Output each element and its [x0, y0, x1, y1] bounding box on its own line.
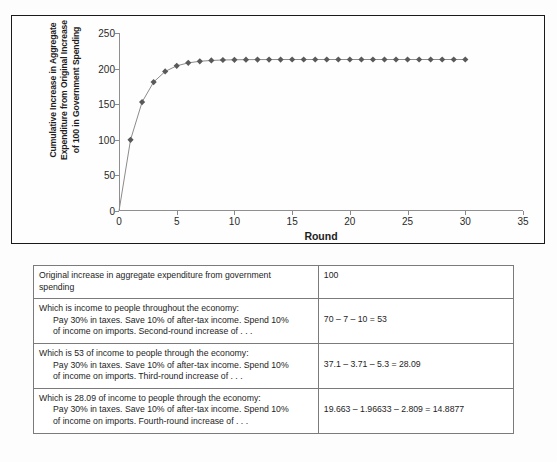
data-point-marker: [439, 56, 445, 62]
data-point-marker: [358, 56, 364, 62]
x-tick-mark: [292, 211, 293, 215]
multiplier-table: Original increase in aggregate expenditu…: [33, 265, 514, 434]
y-tick-mark: [115, 211, 119, 212]
x-tick-label: 35: [517, 216, 528, 227]
table-body: Original increase in aggregate expenditu…: [34, 266, 514, 434]
data-point-marker: [185, 60, 191, 66]
x-tick-label: 5: [174, 216, 180, 227]
x-tick-mark: [350, 211, 351, 215]
table-cell-value: 100: [318, 266, 513, 299]
x-tick-mark: [465, 211, 466, 215]
data-point-marker: [370, 56, 376, 62]
x-tick-mark: [177, 211, 178, 215]
description-line-1: Which is 53 of income to people through …: [39, 348, 313, 360]
data-point-marker: [312, 56, 318, 62]
plot-area: 050100150200250 05101520253035: [119, 33, 523, 211]
y-tick-label: 50: [104, 170, 115, 181]
table-cell-value: 37.1 – 3.71 – 5.3 = 28.09: [318, 343, 513, 388]
data-point-marker: [220, 57, 226, 63]
description-line-3: of income on imports. Second-round incre…: [39, 326, 313, 338]
data-point-marker: [289, 56, 295, 62]
x-tick-label: 30: [460, 216, 471, 227]
y-tick-label: 100: [98, 134, 115, 145]
x-axis-title: Round: [119, 230, 523, 242]
y-tick-label: 150: [98, 99, 115, 110]
table-cell-value: 70 – 7 – 10 = 53: [318, 299, 513, 344]
x-tick-mark: [234, 211, 235, 215]
data-point-marker: [335, 56, 341, 62]
x-tick-mark: [523, 211, 524, 215]
x-tick-label: 25: [402, 216, 413, 227]
data-point-marker: [243, 57, 249, 63]
data-point-marker: [278, 56, 284, 62]
data-point-marker: [208, 57, 214, 63]
value-text: 70 – 7 – 10 = 53: [324, 303, 508, 326]
data-point-marker: [254, 56, 260, 62]
data-point-marker: [231, 57, 237, 63]
table-cell-description: Which is 28.09 of income to people throu…: [34, 388, 319, 433]
description-line-1: Which is income to people throughout the…: [39, 303, 313, 315]
chart-panel: Cumulative Increase in Aggregate Expendi…: [11, 15, 545, 244]
table-cell-description: Original increase in aggregate expenditu…: [34, 266, 319, 299]
data-series: [119, 33, 523, 211]
x-tick-label: 10: [229, 216, 240, 227]
description-line-3: of income on imports. Third-round increa…: [39, 371, 313, 383]
x-tick-label: 20: [344, 216, 355, 227]
data-point-marker: [174, 63, 180, 69]
value-text: 100: [324, 270, 508, 282]
data-point-marker: [462, 56, 468, 62]
data-point-marker: [416, 56, 422, 62]
description-line-2: spending: [39, 282, 313, 294]
data-point-marker: [127, 137, 133, 143]
description-line-2: Pay 30% in taxes. Save 10% of after-tax …: [39, 315, 313, 327]
data-point-marker: [139, 99, 145, 105]
value-text: 19.663 – 1.96633 – 2.809 = 14.8877: [324, 393, 508, 416]
data-point-marker: [197, 58, 203, 64]
value-text: 37.1 – 3.71 – 5.3 = 28.09: [324, 348, 508, 371]
table-row: Which is 28.09 of income to people throu…: [34, 388, 514, 433]
data-point-marker: [324, 56, 330, 62]
data-point-marker: [347, 56, 353, 62]
table-cell-description: Which is 53 of income to people through …: [34, 343, 319, 388]
description-line-2: Pay 30% in taxes. Save 10% of after-tax …: [39, 360, 313, 372]
y-axis-title-text: Cumulative Increase in Aggregate Expendi…: [48, 20, 82, 160]
x-tick-mark: [408, 211, 409, 215]
x-tick-label: 0: [116, 216, 122, 227]
data-point-marker: [266, 56, 272, 62]
data-point-marker: [451, 56, 457, 62]
description-line-3: of income on imports. Fourth-round incre…: [39, 416, 313, 428]
table-row: Which is income to people throughout the…: [34, 299, 514, 344]
table-cell-description: Which is income to people throughout the…: [34, 299, 319, 344]
data-point-marker: [428, 56, 434, 62]
data-point-marker: [381, 56, 387, 62]
x-tick-label: 15: [287, 216, 298, 227]
description-line-2: Pay 30% in taxes. Save 10% of after-tax …: [39, 404, 313, 416]
data-point-marker: [404, 56, 410, 62]
table-cell-value: 19.663 – 1.96633 – 2.809 = 14.8877: [318, 388, 513, 433]
y-axis-title: Cumulative Increase in Aggregate Expendi…: [43, 0, 87, 185]
description-line-1: Original increase in aggregate expenditu…: [39, 270, 313, 282]
table-row: Original increase in aggregate expenditu…: [34, 266, 514, 299]
y-tick-label: 200: [98, 63, 115, 74]
data-point-marker: [301, 56, 307, 62]
data-point-marker: [393, 56, 399, 62]
description-line-1: Which is 28.09 of income to people throu…: [39, 393, 313, 405]
table-row: Which is 53 of income to people through …: [34, 343, 514, 388]
series-line: [119, 60, 465, 211]
y-tick-label: 250: [98, 28, 115, 39]
